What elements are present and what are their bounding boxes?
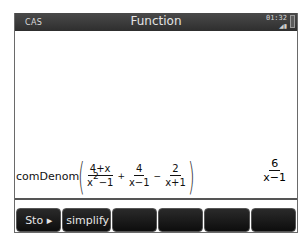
operator: + [117, 171, 125, 181]
left-paren: ( [78, 157, 85, 195]
fraction-3: 2 x+1 [163, 162, 188, 190]
signal-icon: ◢▮ [279, 22, 287, 29]
command-name: comDenom [16, 170, 79, 183]
battery-icon [290, 15, 295, 28]
input-expression: comDenom ( 4+x x2−1 + 4 x−1 − 2 x+1 ) [16, 154, 194, 198]
softkey-5[interactable] [204, 208, 249, 232]
softkey-6[interactable] [251, 208, 296, 232]
softkey-4[interactable] [158, 208, 203, 232]
history-entry[interactable]: comDenom ( 4+x x2−1 + 4 x−1 − 2 x+1 ) [15, 154, 297, 198]
calculator-screen: CAS Function 01:32 ◢▮ comDenom ( 4+x x2−… [14, 13, 298, 233]
fraction-1: 4+x x2−1 [85, 162, 115, 190]
clock: 01:32 [266, 14, 287, 22]
entry-line-divider [15, 198, 297, 200]
right-paren: ) [188, 157, 195, 195]
softkey-bar: Sto ▸ simplify [15, 208, 297, 232]
history-area[interactable]: comDenom ( 4+x x2−1 + 4 x−1 − 2 x+1 ) [15, 31, 297, 198]
app-title: Function [15, 14, 297, 28]
simplify-button[interactable]: simplify [62, 208, 110, 232]
result-expression: 6 x−1 [261, 157, 288, 185]
operator: − [154, 171, 162, 181]
title-bar: CAS Function 01:32 ◢▮ [15, 13, 297, 31]
softkey-3[interactable] [112, 208, 157, 232]
sto-button[interactable]: Sto ▸ [16, 208, 61, 232]
fraction-2: 4 x−1 [127, 162, 152, 190]
